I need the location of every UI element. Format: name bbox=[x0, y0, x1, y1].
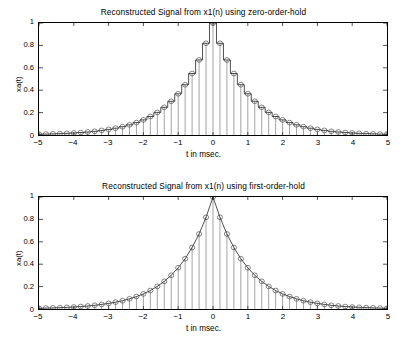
subplot-zero-order-hold: Reconstructed Signal from x1(n) using ze… bbox=[0, 0, 407, 174]
x-axis-title: t in msec. bbox=[0, 324, 407, 333]
x-tick-label: −3 bbox=[93, 313, 123, 321]
plot-area bbox=[38, 22, 388, 136]
y-tick-label: 0.4 bbox=[4, 86, 34, 94]
x-tick-label: −1 bbox=[163, 139, 193, 147]
x-tick-label: 1 bbox=[233, 139, 263, 147]
y-tick-label: 1 bbox=[4, 192, 34, 200]
x-tick-label: −5 bbox=[23, 313, 53, 321]
x-tick-label: −4 bbox=[58, 313, 88, 321]
x-tick-label: 1 bbox=[233, 313, 263, 321]
plot-canvas bbox=[39, 197, 387, 309]
y-tick-label: 0.2 bbox=[4, 283, 34, 291]
matlab-figure: Reconstructed Signal from x1(n) using ze… bbox=[0, 0, 407, 348]
x-tick-label: 0 bbox=[198, 139, 228, 147]
x-tick-label: 5 bbox=[373, 313, 403, 321]
subplot-title: Reconstructed Signal from x1(n) using ze… bbox=[0, 7, 407, 17]
x-tick-label: 4 bbox=[338, 313, 368, 321]
plot-area bbox=[38, 196, 388, 310]
x-tick-label: −3 bbox=[93, 139, 123, 147]
x-axis-title: t in msec. bbox=[0, 150, 407, 159]
x-tick-label: 5 bbox=[373, 139, 403, 147]
x-tick-label: −2 bbox=[128, 139, 158, 147]
plot-canvas bbox=[39, 23, 387, 135]
y-tick-label: 0.6 bbox=[4, 64, 34, 72]
y-tick-label: 1 bbox=[4, 18, 34, 26]
y-tick-label: 0.6 bbox=[4, 238, 34, 246]
x-tick-label: 2 bbox=[268, 313, 298, 321]
x-tick-label: 2 bbox=[268, 139, 298, 147]
subplot-title: Reconstructed Signal from x1(n) using fi… bbox=[0, 181, 407, 191]
x-tick-label: 3 bbox=[303, 139, 333, 147]
y-tick-label: 0.4 bbox=[4, 260, 34, 268]
x-tick-label: −1 bbox=[163, 313, 193, 321]
x-tick-label: −5 bbox=[23, 139, 53, 147]
x-tick-label: −4 bbox=[58, 139, 88, 147]
y-tick-label: 0.2 bbox=[4, 109, 34, 117]
x-tick-label: 3 bbox=[303, 313, 333, 321]
y-tick-label: 0.8 bbox=[4, 41, 34, 49]
x-tick-label: 0 bbox=[198, 313, 228, 321]
subplot-first-order-hold: Reconstructed Signal from x1(n) using fi… bbox=[0, 174, 407, 348]
y-tick-label: 0.8 bbox=[4, 215, 34, 223]
x-tick-label: −2 bbox=[128, 313, 158, 321]
x-tick-label: 4 bbox=[338, 139, 368, 147]
